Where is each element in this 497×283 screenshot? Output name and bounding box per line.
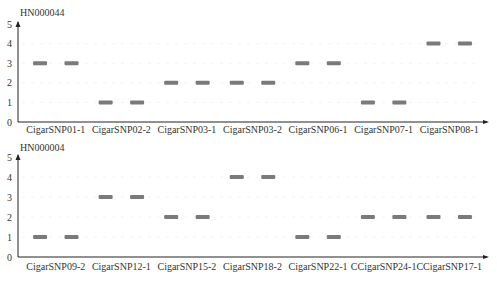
x-category-label: CigarSNP03-1 — [157, 124, 216, 135]
data-marker — [33, 61, 47, 65]
data-marker — [392, 215, 406, 219]
y-axis-arrow-icon — [16, 21, 21, 27]
y-tick-label: 2 — [7, 212, 12, 223]
data-marker — [196, 215, 210, 219]
x-category-label: CigarSNP15-2 — [157, 261, 216, 272]
y-tick-label: 3 — [7, 58, 12, 69]
y-tick-label: 1 — [7, 97, 12, 108]
data-marker — [458, 42, 472, 46]
x-category-label: CCigarSNP24-1 — [351, 261, 417, 272]
y-tick-label: 1 — [7, 232, 12, 243]
data-marker — [164, 81, 178, 85]
x-category-label: CigarSNP03-2 — [223, 124, 282, 135]
y-tick-label: 5 — [7, 152, 12, 163]
x-category-label: CigarSNP07-1 — [354, 124, 413, 135]
data-marker — [295, 235, 309, 239]
data-marker — [361, 100, 375, 104]
y-tick-label: 2 — [7, 77, 12, 88]
x-category-label: CigarSNP22-1 — [289, 261, 348, 272]
data-marker — [327, 235, 341, 239]
x-axis-arrow-icon — [483, 255, 489, 259]
y-tick-label: 3 — [7, 192, 12, 203]
chart-2: HN000004012345CigarSNP09-2CigarSNP12-1Ci… — [7, 142, 489, 272]
data-marker — [33, 235, 47, 239]
x-category-label: CigarSNP06-1 — [289, 124, 348, 135]
data-marker — [99, 195, 113, 199]
data-marker — [164, 215, 178, 219]
data-marker — [65, 61, 79, 65]
x-category-label: CigarSNP12-1 — [92, 261, 151, 272]
x-category-label: CigarSNP18-2 — [223, 261, 282, 272]
y-tick-label: 4 — [7, 38, 12, 49]
data-marker — [65, 235, 79, 239]
data-marker — [361, 215, 375, 219]
data-marker — [130, 195, 144, 199]
data-marker — [99, 100, 113, 104]
chart-title: HN000004 — [20, 142, 64, 153]
chart-canvas: HN000044012345CigarSNP01-1CigarSNP02-2Ci… — [0, 0, 497, 283]
data-marker — [426, 42, 440, 46]
data-marker — [230, 81, 244, 85]
x-axis-arrow-icon — [483, 120, 489, 124]
x-category-label: CigarSNP09-2 — [26, 261, 85, 272]
data-marker — [196, 81, 210, 85]
data-marker — [130, 100, 144, 104]
data-marker — [230, 175, 244, 179]
data-marker — [295, 61, 309, 65]
chart-title: HN000044 — [20, 7, 64, 18]
data-marker — [458, 215, 472, 219]
x-category-label: CigarSNP02-2 — [92, 124, 151, 135]
data-marker — [261, 81, 275, 85]
x-category-label: CCigarSNP17-1 — [416, 261, 482, 272]
data-marker — [327, 61, 341, 65]
data-marker — [261, 175, 275, 179]
y-tick-label: 5 — [7, 19, 12, 30]
y-tick-label: 0 — [7, 117, 12, 128]
y-axis-arrow-icon — [16, 154, 21, 160]
data-marker — [426, 215, 440, 219]
chart-1: HN000044012345CigarSNP01-1CigarSNP02-2Ci… — [7, 7, 489, 135]
x-category-label: CigarSNP08-1 — [420, 124, 479, 135]
x-category-label: CigarSNP01-1 — [26, 124, 85, 135]
data-marker — [392, 100, 406, 104]
y-tick-label: 4 — [7, 172, 12, 183]
y-tick-label: 0 — [7, 252, 12, 263]
